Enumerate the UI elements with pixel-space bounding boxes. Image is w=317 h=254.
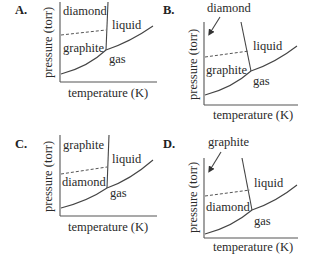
panel-c-graphite-diamond-boundary <box>61 167 107 174</box>
panel-d-graphite-diamond-boundary <box>205 190 250 196</box>
panel-d: D. graphite pressure (torr) temperature … <box>163 135 298 254</box>
panel-b-ylabel: pressure (torr) <box>186 29 200 100</box>
panel-a-region-bottom-left: graphite <box>63 41 104 55</box>
panel-a-diamond-graphite-boundary <box>61 30 106 35</box>
panel-c-ylabel: pressure (torr) <box>41 141 55 212</box>
panel-a-region-gas: gas <box>109 52 126 66</box>
panel-c-letter: C. <box>15 137 27 151</box>
panel-c-region-bottom-left: diamond <box>62 175 106 189</box>
panel-c-region-top-left: graphite <box>63 138 104 152</box>
panel-c-solid-liquid-boundary <box>107 135 109 188</box>
panel-b-region-bottom-left: graphite <box>206 63 247 77</box>
panel-d-ylabel: pressure (torr) <box>186 162 200 233</box>
panel-a-xlabel: temperature (K) <box>68 86 148 100</box>
panel-d-region-bottom-left: diamond <box>206 200 250 214</box>
panel-b-diamond-graphite-boundary <box>205 51 249 57</box>
panel-d-xlabel: temperature (K) <box>213 240 293 254</box>
panel-d-pointer-arrow-icon <box>210 152 221 170</box>
panel-c-region-liquid: liquid <box>112 152 142 166</box>
panel-d-letter: D. <box>163 137 175 151</box>
panel-b-pointer-arrow-icon <box>210 17 220 33</box>
panel-d-arrow-label: graphite <box>208 135 249 149</box>
panel-c-region-gas: gas <box>110 186 127 200</box>
panel-c: C. pressure (torr) temperature (K) graph… <box>15 135 157 234</box>
phase-diagram-figure: A. pressure (torr) temperature (K) diamo… <box>0 0 317 254</box>
panel-a-letter: A. <box>15 3 27 17</box>
panel-d-region-liquid: liquid <box>254 176 284 190</box>
panel-b: B. diamond pressure (torr) temperature (… <box>163 1 298 122</box>
panel-b-letter: B. <box>163 3 174 17</box>
panel-d-region-gas: gas <box>254 214 271 228</box>
panel-a-region-liquid: liquid <box>112 18 142 32</box>
panel-b-region-liquid: liquid <box>253 39 283 53</box>
panel-a: A. pressure (torr) temperature (K) diamo… <box>15 2 157 100</box>
panel-b-arrow-label: diamond <box>207 1 251 15</box>
panel-a-region-top-left: diamond <box>63 4 107 18</box>
panel-c-xlabel: temperature (K) <box>68 220 148 234</box>
panel-b-region-gas: gas <box>253 74 270 88</box>
panel-b-xlabel: temperature (K) <box>213 108 293 122</box>
panel-a-ylabel: pressure (torr) <box>41 7 55 78</box>
